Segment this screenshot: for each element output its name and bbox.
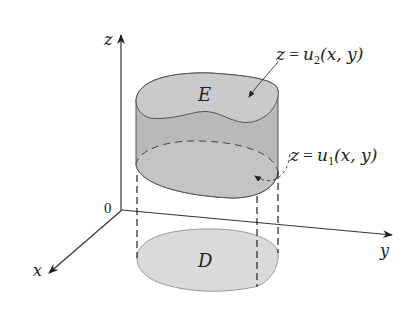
y-axis-label: y [379, 241, 390, 260]
region-D-label: D [197, 250, 213, 271]
origin-label: 0 [104, 200, 112, 216]
x-axis [49, 210, 122, 273]
region-type1-diagram: z y x 0 E D z = u2(x, y) z = u1(x, y) [0, 0, 416, 319]
solid-E-label: E [197, 84, 211, 105]
z-axis-label: z [103, 30, 113, 49]
upper-surface-equation: z = u2(x, y) [275, 44, 363, 67]
lower-surface-equation: z = u1(x, y) [289, 145, 377, 168]
x-axis-label: x [33, 261, 42, 280]
